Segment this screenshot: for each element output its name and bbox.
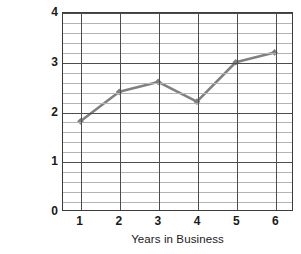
gridline-horizontal-minor — [63, 73, 292, 74]
gridline-horizontal-minor — [63, 142, 292, 143]
gridline-horizontal-minor — [63, 93, 292, 94]
gridline-vertical — [276, 13, 277, 210]
plot-inner — [63, 13, 292, 210]
gridline-horizontal-minor — [63, 182, 292, 183]
gridline-horizontal-minor — [63, 172, 292, 173]
gridline-horizontal-minor — [63, 23, 292, 24]
x-axis-tick-label: 6 — [263, 215, 287, 227]
x-axis-title: Years in Business — [62, 234, 293, 246]
x-axis-tick-label: 3 — [146, 215, 170, 227]
x-axis-tick-label: 5 — [224, 215, 248, 227]
gridline-horizontal-minor — [63, 33, 292, 34]
gridline-horizontal-minor — [63, 152, 292, 153]
y-axis-tick-label: 0 — [42, 205, 58, 217]
y-axis-tick-label: 2 — [42, 106, 58, 118]
y-axis-tick-labels: 01234 — [38, 0, 58, 254]
gridline-horizontal-minor — [63, 132, 292, 133]
gridline-vertical — [198, 13, 199, 210]
gridline-horizontal-minor — [63, 202, 292, 203]
x-axis-tick-label: 2 — [107, 215, 131, 227]
gridline-vertical — [120, 13, 121, 210]
gridline-horizontal-minor — [63, 122, 292, 123]
line-chart: Students in thousands 01234 123456 Years… — [0, 0, 301, 254]
gridline-vertical — [237, 13, 238, 210]
gridline-horizontal-major — [63, 13, 292, 14]
x-axis-tick-label: 4 — [185, 215, 209, 227]
gridline-horizontal-minor — [63, 43, 292, 44]
gridline-vertical — [81, 13, 82, 210]
x-axis-tick-label: 1 — [68, 215, 92, 227]
gridline-horizontal-minor — [63, 103, 292, 104]
plot-area — [62, 12, 293, 211]
gridline-horizontal-minor — [63, 192, 292, 193]
y-axis-tick-label: 3 — [42, 56, 58, 68]
gridline-horizontal-major — [63, 113, 292, 114]
gridline-horizontal-major — [63, 162, 292, 163]
y-axis-title: Students in thousands — [0, 60, 40, 180]
gridline-horizontal-minor — [63, 53, 292, 54]
y-axis-tick-label: 1 — [42, 155, 58, 167]
gridline-vertical — [159, 13, 160, 210]
y-axis-tick-label: 4 — [42, 6, 58, 18]
gridline-horizontal-minor — [63, 83, 292, 84]
gridline-horizontal-major — [63, 63, 292, 64]
